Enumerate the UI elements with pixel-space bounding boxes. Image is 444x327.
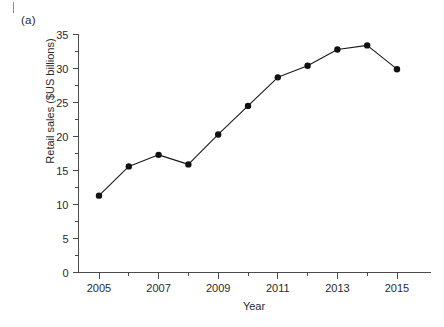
y-tick-label: 5 — [62, 233, 68, 245]
data-point-marker — [394, 66, 400, 72]
data-point-marker — [334, 46, 340, 52]
figure-panel: (a) Retail sales ($US billions) Year 051… — [0, 0, 444, 327]
x-tick-label: 2005 — [87, 282, 111, 294]
series-line — [99, 45, 397, 195]
y-tick-label: 35 — [56, 29, 68, 41]
x-tick-label: 2011 — [266, 282, 290, 294]
y-tick-label: 20 — [56, 131, 68, 143]
data-point-marker — [275, 74, 281, 80]
data-point-marker — [215, 131, 221, 137]
x-tick-label: 2013 — [325, 282, 349, 294]
data-point-marker — [364, 42, 370, 48]
data-point-marker — [126, 163, 132, 169]
y-tick-label: 15 — [56, 165, 68, 177]
y-tick-label: 0 — [62, 267, 68, 279]
data-point-marker — [155, 152, 161, 158]
data-series-retail-sales — [96, 42, 400, 199]
y-tick-label: 25 — [56, 97, 68, 109]
x-tick-label: 2009 — [206, 282, 230, 294]
data-point-marker — [185, 161, 191, 167]
x-tick-label: 2007 — [146, 282, 170, 294]
data-point-marker — [304, 63, 310, 69]
line-chart-plot: 05101520253035 200520072009201120132015 — [0, 0, 444, 327]
x-tick-label: 2015 — [385, 282, 409, 294]
x-axis: 200520072009201120132015 — [79, 273, 431, 294]
y-tick-label: 30 — [56, 63, 68, 75]
y-tick-label: 10 — [56, 199, 68, 211]
y-axis: 05101520253035 — [56, 29, 78, 279]
data-point-marker — [245, 103, 251, 109]
data-point-marker — [96, 192, 102, 198]
